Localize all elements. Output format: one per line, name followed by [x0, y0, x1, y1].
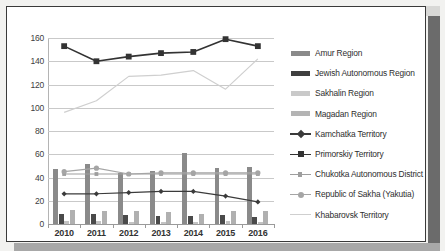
data-point-marker	[223, 194, 228, 199]
data-point-marker	[158, 189, 163, 194]
data-point-marker	[255, 43, 261, 49]
legend-item[interactable]: Republic of Sakha (Yakutia)	[290, 184, 440, 204]
legend-item-label: Primorskiy Territory	[315, 149, 384, 159]
line-series-group	[48, 38, 274, 224]
legend-swatch-icon	[290, 88, 311, 99]
data-point-marker	[126, 54, 132, 60]
x-axis-tick-label: 2011	[87, 228, 106, 238]
line-series	[64, 39, 258, 61]
data-point-marker	[126, 190, 131, 195]
legend-item[interactable]: Sakhalin Region	[290, 83, 440, 103]
legend-item-label: Chukotka Autonomous District	[315, 169, 423, 179]
page-edge-shadow-bottom	[14, 243, 440, 251]
legend-item[interactable]: Magadan Region	[290, 104, 440, 124]
y-axis-tick-label: 100	[10, 103, 44, 113]
y-axis-tick-label: 20	[10, 196, 44, 206]
legend-item[interactable]: Chukotka Autonomous District	[290, 164, 440, 184]
y-axis: 020406080100120140160	[7, 38, 44, 224]
legend-item-label: Khabarovsk Territory	[315, 210, 389, 220]
data-point-marker	[94, 58, 100, 64]
plot-area	[48, 38, 274, 224]
legend-swatch-icon	[290, 149, 311, 160]
x-axis-tick-label: 2013	[151, 228, 170, 238]
page-edge-corner	[426, 6, 440, 16]
x-axis-tick-label: 2012	[119, 228, 138, 238]
x-axis-tick-mark	[274, 224, 275, 228]
data-point-marker	[255, 199, 260, 204]
data-point-marker	[126, 171, 131, 176]
y-axis-tick-label: 40	[10, 173, 44, 183]
chart-legend: Amur RegionJewish Autonomous RegionSakha…	[290, 43, 440, 225]
y-axis-tick-label: 0	[10, 219, 44, 229]
x-axis-tick-label: 2016	[248, 228, 267, 238]
x-axis-tick-label: 2010	[55, 228, 74, 238]
data-point-marker	[158, 170, 163, 175]
y-axis-tick-label: 80	[10, 126, 44, 136]
chart-screenshot: 020406080100120140160 201020112012201320…	[0, 0, 445, 251]
x-axis-tick-label: 2014	[184, 228, 203, 238]
legend-item-label: Amur Region	[315, 48, 362, 58]
data-point-marker	[255, 170, 260, 175]
y-axis-tick-label: 120	[10, 80, 44, 90]
legend-item[interactable]: Amur Region	[290, 43, 440, 63]
legend-swatch-icon	[290, 48, 311, 59]
legend-swatch-icon	[290, 128, 311, 139]
legend-swatch-icon	[290, 189, 311, 200]
y-axis-tick-label: 160	[10, 33, 44, 43]
legend-item-label: Sakhalin Region	[315, 88, 374, 98]
data-point-marker	[191, 189, 196, 194]
legend-swatch-icon	[290, 68, 311, 79]
legend-item[interactable]: Kamchatka Territory	[290, 124, 440, 144]
data-point-marker	[223, 170, 228, 175]
legend-item-label: Kamchatka Territory	[315, 129, 386, 139]
data-point-marker	[191, 170, 196, 175]
data-point-marker	[223, 36, 229, 42]
legend-item-label: Jewish Autonomous Region	[315, 68, 415, 78]
line-series	[64, 59, 258, 112]
legend-swatch-icon	[290, 108, 311, 119]
y-axis-tick-label: 60	[10, 149, 44, 159]
chart-frame: 020406080100120140160 201020112012201320…	[6, 6, 426, 242]
x-axis-tick-label: 2015	[216, 228, 235, 238]
data-point-marker	[62, 169, 67, 174]
x-axis-line	[48, 224, 274, 225]
legend-item-label: Republic of Sakha (Yakutia)	[315, 189, 414, 199]
legend-swatch-icon	[290, 169, 311, 180]
legend-item[interactable]: Khabarovsk Territory	[290, 205, 440, 225]
legend-item[interactable]: Jewish Autonomous Region	[290, 63, 440, 83]
legend-item[interactable]: Primorskiy Territory	[290, 144, 440, 164]
legend-swatch-icon	[290, 209, 311, 220]
data-point-marker	[190, 49, 196, 55]
data-point-marker	[61, 43, 67, 49]
legend-item-label: Magadan Region	[315, 109, 377, 119]
data-point-marker	[158, 50, 164, 56]
x-axis: 2010201120122013201420152016	[48, 228, 274, 244]
y-axis-tick-label: 140	[10, 56, 44, 66]
data-point-marker	[94, 191, 99, 196]
data-point-marker	[95, 172, 99, 176]
data-point-marker	[62, 191, 67, 196]
data-point-marker	[94, 166, 99, 171]
